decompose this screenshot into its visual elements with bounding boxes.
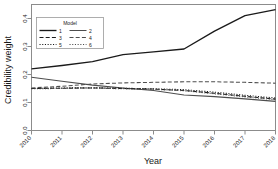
y-tick-label: 0.1 [22,98,28,107]
y-tick-label: 0.2 [22,70,28,79]
legend-label-6[interactable]: 6 [89,42,92,48]
y-tick-label: 0.3 [22,42,28,51]
legend-title: Model [63,20,77,26]
legend-label-2[interactable]: 2 [89,28,92,34]
legend-label-5[interactable]: 5 [59,42,62,48]
x-axis-title: Year [144,156,162,166]
y-tick-label: 0.0 [22,126,28,135]
chart-figure: 0.00.10.20.30.4 201020112012201320142015… [0,0,278,169]
legend[interactable]: Model 123456 [37,18,104,49]
line-chart-canvas: 0.00.10.20.30.4 201020112012201320142015… [0,0,278,169]
y-axis-title: Credibility weight [3,35,13,104]
legend-label-3[interactable]: 3 [59,35,62,41]
y-tick-label: 0.4 [22,14,28,23]
legend-label-4[interactable]: 4 [89,35,92,41]
legend-label-1[interactable]: 1 [59,28,62,34]
